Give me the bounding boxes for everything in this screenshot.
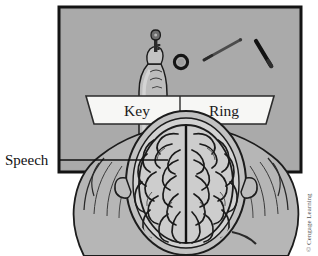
figure-canvas: Key Ring — [0, 0, 318, 256]
copyright-credit: © Cengage Learning — [305, 193, 313, 252]
speech-label: Speech — [5, 152, 49, 168]
figure-root: Key Ring — [0, 0, 318, 256]
banner-left-word: Key — [124, 102, 150, 119]
banner-right-word: Ring — [209, 102, 239, 119]
